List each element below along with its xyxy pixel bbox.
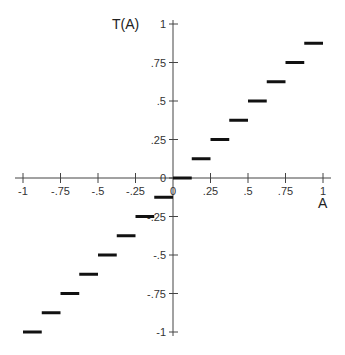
x-axis-title: A (318, 195, 328, 211)
step-function-chart: -1-.75-.5-.250.25.5.7511.75.5.250-.25-.5… (0, 0, 345, 355)
x-tick-label: -.75 (51, 185, 70, 197)
y-tick-label: .5 (157, 95, 166, 107)
x-tick-label: 0 (170, 185, 176, 197)
y-tick-label: -1 (156, 326, 166, 338)
y-tick-label: .25 (151, 134, 166, 146)
x-tick-label: -.25 (126, 185, 145, 197)
y-tick-label: 0 (160, 172, 166, 184)
x-tick-label: -1 (18, 185, 28, 197)
x-tick-label: .75 (278, 185, 293, 197)
y-tick-label: .75 (151, 57, 166, 69)
x-tick-label: .5 (243, 185, 252, 197)
y-axis-title: T(A) (112, 16, 139, 32)
y-tick-label: -.5 (153, 249, 166, 261)
x-tick-label: .25 (203, 185, 218, 197)
y-tick-label: -.75 (147, 288, 166, 300)
x-tick-label: -.5 (92, 185, 105, 197)
y-tick-label: 1 (160, 18, 166, 30)
